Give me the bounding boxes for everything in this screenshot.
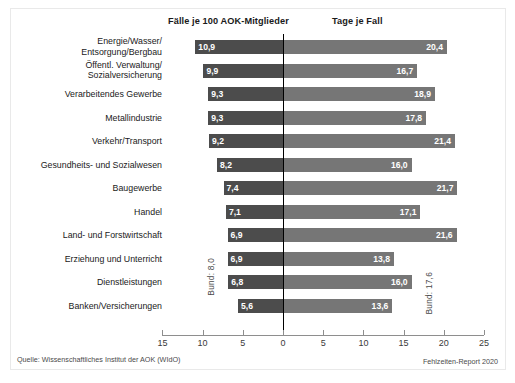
- bar-left: 7,4: [224, 181, 283, 195]
- axis-tick: [203, 330, 204, 335]
- zero-axis-line: [283, 34, 284, 335]
- bar-left: 6,8: [228, 275, 283, 289]
- bar-right: 16,0: [283, 158, 412, 172]
- bar-left: 9,3: [208, 87, 283, 101]
- bar-value-left: 10,9: [198, 40, 215, 54]
- axis-tick-label: 10: [358, 338, 368, 348]
- bar-value-right: 16,7: [397, 64, 414, 78]
- bar-left: 5,6: [238, 299, 283, 313]
- bar-right: 16,0: [283, 275, 412, 289]
- axis-tick: [323, 330, 324, 335]
- chart-figure: Fälle je 100 AOK-Mitglieder Tage je Fall…: [0, 0, 515, 383]
- bar-left: 6,9: [228, 252, 283, 266]
- bar-right: 20,4: [283, 40, 447, 54]
- axis-tick-label: 15: [157, 338, 167, 348]
- bar-row: Dienstleistungen6,816,0: [0, 275, 515, 289]
- axis-tick: [484, 330, 485, 335]
- bar-value-left: 9,2: [212, 134, 224, 148]
- plot-area: Energie/Wasser/ Entsorgung/Bergbau10,920…: [0, 32, 515, 332]
- axis-tick: [444, 330, 445, 335]
- bar-right: 16,7: [283, 64, 417, 78]
- bar-left: 10,9: [195, 40, 283, 54]
- x-axis-line: [162, 335, 484, 336]
- axis-tick: [283, 330, 284, 335]
- bar-value-right: 13,8: [373, 252, 390, 266]
- bar-row: Verkehr/Transport9,221,4: [0, 134, 515, 148]
- bar-value-left: 9,9: [206, 64, 218, 78]
- axis-tick-label: 0: [280, 338, 285, 348]
- axis-tick: [162, 330, 163, 335]
- source-note: Quelle: Wissenschaftliches Institut der …: [17, 355, 180, 364]
- bar-value-right: 20,4: [426, 40, 443, 54]
- category-label: Öffentl. Verwaltung/ Sozialversicherung: [0, 60, 162, 81]
- bar-value-right: 21,7: [437, 181, 454, 195]
- category-label: Energie/Wasser/ Entsorgung/Bergbau: [0, 36, 162, 57]
- bar-value-right: 21,4: [434, 134, 451, 148]
- bar-value-left: 9,3: [211, 87, 223, 101]
- category-label: Land- und Forstwirtschaft: [0, 230, 162, 241]
- bar-value-right: 16,0: [391, 158, 408, 172]
- axis-tick: [404, 330, 405, 335]
- bar-right: 17,8: [283, 111, 426, 125]
- bar-row: Gesundheits- und Sozialwesen8,216,0: [0, 158, 515, 172]
- bar-right: 21,7: [283, 181, 457, 195]
- bar-value-left: 8,2: [220, 158, 232, 172]
- bar-value-right: 17,1: [400, 205, 417, 219]
- axis-tick-label: 15: [399, 338, 409, 348]
- report-note: Fehlzeiten-Report 2020: [423, 357, 498, 366]
- bar-right: 13,6: [283, 299, 392, 313]
- axis-tick-label: 25: [479, 338, 489, 348]
- axis-tick-label: 5: [321, 338, 326, 348]
- bar-value-left: 7,4: [227, 181, 239, 195]
- bar-value-left: 5,6: [241, 299, 253, 313]
- bar-value-left: 6,9: [231, 252, 243, 266]
- bar-left: 9,2: [209, 134, 283, 148]
- bar-value-left: 7,1: [229, 205, 241, 219]
- bar-right: 17,1: [283, 205, 420, 219]
- bar-row: Banken/Versicherungen5,613,6: [0, 299, 515, 313]
- axis-tick: [243, 330, 244, 335]
- bar-row: Baugewerbe7,421,7: [0, 181, 515, 195]
- bar-value-right: 17,8: [405, 111, 422, 125]
- category-label: Handel: [0, 207, 162, 218]
- bar-value-left: 9,3: [211, 111, 223, 125]
- column-header-right: Tage je Fall: [332, 16, 383, 26]
- bar-right: 21,6: [283, 228, 457, 242]
- bar-row: Verarbeitendes Gewerbe9,318,9: [0, 87, 515, 101]
- bar-right: 21,4: [283, 134, 455, 148]
- bar-value-right: 16,0: [391, 275, 408, 289]
- bar-row: Energie/Wasser/ Entsorgung/Bergbau10,920…: [0, 40, 515, 54]
- bund-annotation-right: Bund: 17,6: [424, 272, 434, 315]
- bar-left: 9,9: [203, 64, 283, 78]
- category-label: Erziehung und Unterricht: [0, 254, 162, 265]
- bar-row: Handel7,117,1: [0, 205, 515, 219]
- bar-left: 7,1: [226, 205, 283, 219]
- column-header-left: Fälle je 100 AOK-Mitglieder: [168, 16, 289, 26]
- category-label: Dienstleistungen: [0, 277, 162, 288]
- bar-row: Erziehung und Unterricht6,913,8: [0, 252, 515, 266]
- category-label: Gesundheits- und Sozialwesen: [0, 160, 162, 171]
- axis-tick-label: 20: [439, 338, 449, 348]
- category-label: Verkehr/Transport: [0, 136, 162, 147]
- bar-left: 8,2: [217, 158, 283, 172]
- category-label: Banken/Versicherungen: [0, 301, 162, 312]
- axis-tick: [363, 330, 364, 335]
- bar-value-right: 13,6: [372, 299, 389, 313]
- category-label: Baugewerbe: [0, 183, 162, 194]
- category-label: Metallindustrie: [0, 113, 162, 124]
- bar-row: Land- und Forstwirtschaft6,921,6: [0, 228, 515, 242]
- bar-right: 18,9: [283, 87, 435, 101]
- bar-left: 6,9: [228, 228, 283, 242]
- bar-row: Metallindustrie9,317,8: [0, 111, 515, 125]
- bar-value-right: 18,9: [414, 87, 431, 101]
- bund-annotation-left: Bund: 8,0: [206, 258, 216, 296]
- bar-value-left: 6,8: [231, 275, 243, 289]
- bar-value-left: 6,9: [231, 228, 243, 242]
- axis-tick-label: 10: [198, 338, 208, 348]
- axis-tick-label: 5: [240, 338, 245, 348]
- bar-row: Öffentl. Verwaltung/ Sozialversicherung9…: [0, 64, 515, 78]
- bar-value-right: 21,6: [436, 228, 453, 242]
- category-label: Verarbeitendes Gewerbe: [0, 89, 162, 100]
- bar-left: 9,3: [208, 111, 283, 125]
- bar-right: 13,8: [283, 252, 394, 266]
